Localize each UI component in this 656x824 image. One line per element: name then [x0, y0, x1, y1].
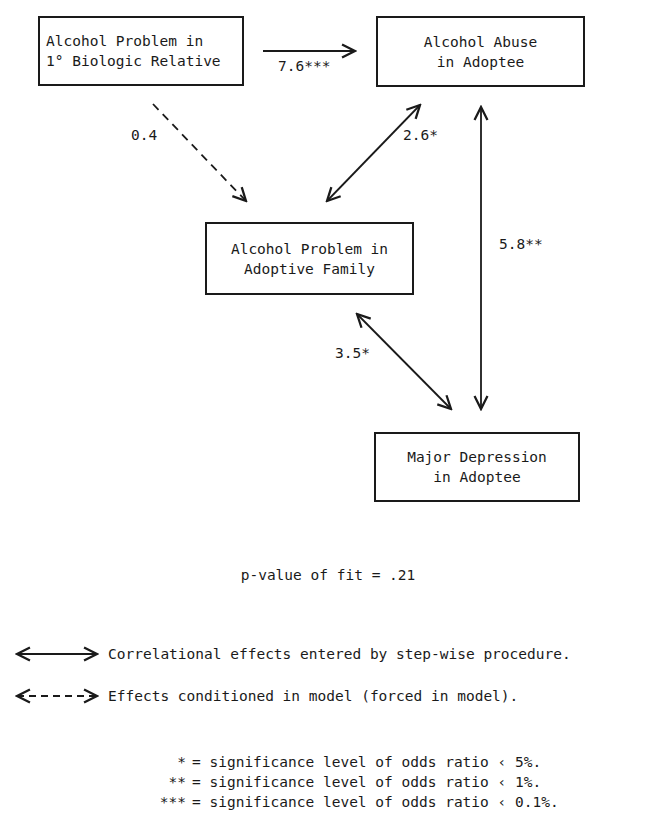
- node-label-line2: Adoptive Family: [244, 259, 375, 279]
- edge-biologic-to-adoptive: [153, 104, 246, 201]
- legend-dashed: Effects conditioned in model (forced in …: [14, 688, 518, 704]
- significance-symbol: *: [0, 752, 192, 772]
- significance-symbol: **: [0, 772, 192, 792]
- node-adoptive-family: Alcohol Problem in Adoptive Family: [205, 222, 414, 295]
- node-alcohol-abuse: Alcohol Abuse in Adoptee: [376, 16, 585, 87]
- node-major-depression: Major Depression in Adoptee: [374, 432, 580, 502]
- edge-label-biologic-to-adoptive: 0.4: [131, 127, 157, 143]
- edge-label-adoptive-abuse: 2.6*: [403, 127, 438, 143]
- significance-symbol: ***: [0, 792, 192, 812]
- node-label-line2: in Adoptee: [437, 52, 524, 72]
- significance-row: ** = significance level of odds ratio ‹ …: [0, 772, 656, 792]
- legend-solid: Correlational effects entered by step-wi…: [14, 646, 571, 662]
- node-label-line1: Alcohol Problem in: [231, 239, 388, 259]
- significance-row: *** = significance level of odds ratio ‹…: [0, 792, 656, 812]
- node-biologic-relative: Alcohol Problem in 1° Biologic Relative: [38, 16, 244, 86]
- dashed-double-arrow-icon: [14, 688, 100, 704]
- node-label-line1: Major Depression: [407, 447, 547, 467]
- edge-adoptive-abuse: [327, 105, 420, 201]
- node-label-line2: 1° Biologic Relative: [46, 51, 221, 71]
- node-label-line1: Alcohol Abuse: [424, 32, 538, 52]
- node-label-line1: Alcohol Problem in: [46, 31, 203, 51]
- edge-label-abuse-depression: 5.8**: [499, 236, 543, 252]
- edge-adoptive-depression: [357, 314, 451, 409]
- significance-text: = significance level of odds ratio ‹ 1%.: [192, 772, 541, 792]
- solid-double-arrow-icon: [14, 646, 100, 662]
- edge-label-biologic-to-abuse: 7.6***: [278, 58, 330, 74]
- legend-solid-text: Correlational effects entered by step-wi…: [108, 646, 571, 662]
- edge-label-adoptive-depression: 3.5*: [335, 345, 370, 361]
- significance-text: = significance level of odds ratio ‹ 0.1…: [192, 792, 559, 812]
- legend-dashed-text: Effects conditioned in model (forced in …: [108, 688, 518, 704]
- significance-row: * = significance level of odds ratio ‹ 5…: [0, 752, 656, 772]
- node-label-line2: in Adoptee: [433, 467, 520, 487]
- fit-p-value: p-value of fit = .21: [0, 567, 656, 583]
- significance-key: * = significance level of odds ratio ‹ 5…: [0, 752, 656, 812]
- significance-text: = significance level of odds ratio ‹ 5%.: [192, 752, 541, 772]
